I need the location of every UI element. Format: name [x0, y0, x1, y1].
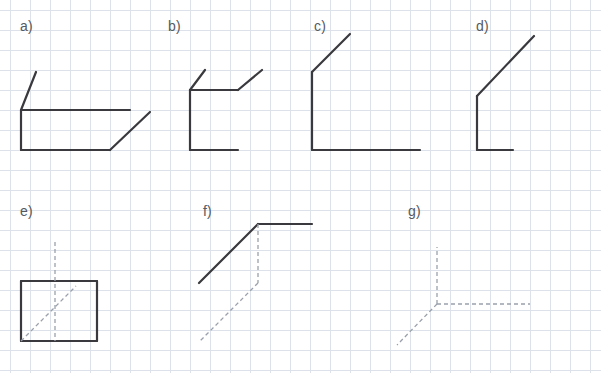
worksheet-canvas: a) b) c) d) e) f) g) — [0, 0, 601, 373]
figures-svg — [0, 0, 601, 373]
figure-d-solid-edge — [477, 36, 534, 96]
figure-label-c: c) — [314, 18, 326, 34]
figure-c-solid-edge — [312, 34, 350, 72]
figure-b — [190, 70, 262, 150]
figure-a-solid-edge — [21, 72, 36, 110]
figure-g-dashed-edge — [397, 304, 437, 345]
figure-g — [397, 247, 530, 345]
figure-label-b: b) — [168, 18, 181, 34]
figure-f-solid-edge — [199, 224, 258, 283]
figure-label-f: f) — [203, 203, 212, 219]
figure-d — [477, 36, 534, 150]
figure-label-d: d) — [476, 18, 489, 34]
figure-c — [312, 34, 420, 150]
figure-label-g: g) — [408, 203, 421, 219]
figure-a — [21, 72, 150, 150]
figure-b-solid-edge — [190, 70, 205, 90]
figure-b-solid-edge — [238, 70, 262, 90]
figure-e — [21, 242, 97, 341]
figure-f — [199, 224, 312, 342]
figure-e-dashed-edge — [21, 286, 76, 341]
figure-a-solid-edge — [110, 112, 150, 150]
figure-label-a: a) — [20, 18, 33, 34]
figure-label-e: e) — [20, 203, 33, 219]
figure-f-dashed-edge — [199, 283, 258, 342]
